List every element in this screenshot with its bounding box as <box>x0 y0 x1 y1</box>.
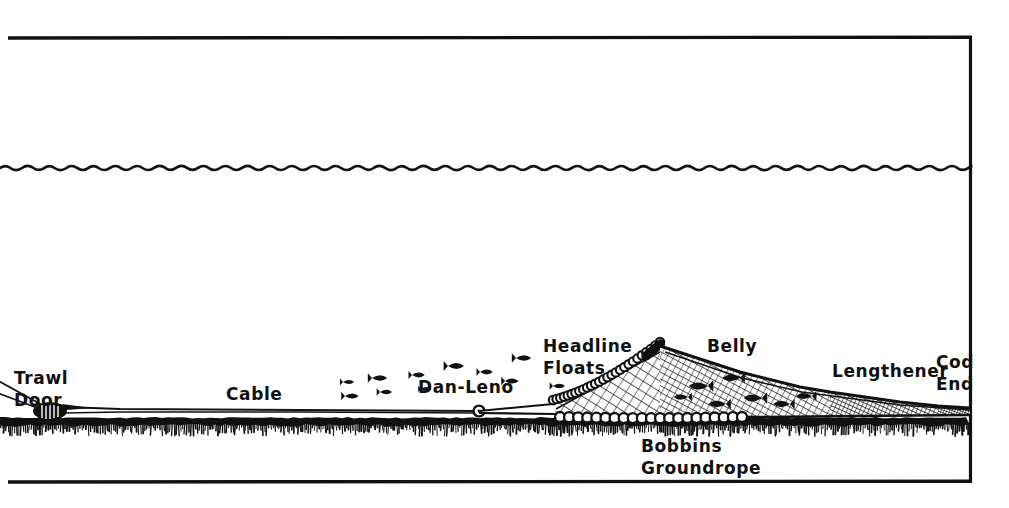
label-trawl-door-line-0: Trawl <box>14 368 68 388</box>
label-cod-end-line-0: Cod <box>936 352 974 372</box>
fish-icon <box>340 378 354 385</box>
groundrope-group <box>555 412 760 423</box>
bottom-border-rule <box>8 481 972 482</box>
label-dan-leno-line-0: Dan-Leno <box>418 377 514 397</box>
label-belly-line-0: Belly <box>707 336 757 356</box>
fish-icon <box>550 382 565 390</box>
label-bobbins-groundrope-line-1: Groundrope <box>641 458 761 478</box>
seabed-group <box>0 417 970 436</box>
bobbin <box>737 412 747 422</box>
label-belly: Belly <box>707 336 757 356</box>
label-cable: Cable <box>226 384 282 404</box>
bobbin-chain <box>555 412 747 423</box>
trawl-diagram-page: TrawlDoorCableDan-LenoHeadlineFloatsBell… <box>0 0 1009 508</box>
label-dan-leno: Dan-Leno <box>418 377 514 397</box>
trawl-diagram-canvas: TrawlDoorCableDan-LenoHeadlineFloatsBell… <box>0 0 1009 508</box>
sea-surface-wavy-line <box>0 166 971 170</box>
fish-icon <box>377 388 392 396</box>
top-border-rule <box>8 37 972 38</box>
otter-trawl-door <box>33 402 478 420</box>
label-lengthener-line-0: Lengthener <box>832 361 948 381</box>
label-bobbins-groundrope-line-0: Bobbins <box>641 436 722 456</box>
fish-icon <box>368 373 387 383</box>
sea-surface-group <box>0 166 971 170</box>
label-trawl-door: TrawlDoor <box>14 368 68 410</box>
label-bobbins-groundrope: BobbinsGroundrope <box>641 436 761 478</box>
label-cod-end-line-1: End <box>936 374 974 394</box>
label-headline-floats-line-0: Headline <box>543 336 633 356</box>
fish-icon <box>341 392 358 401</box>
label-lengthener: Lengthener <box>832 361 948 381</box>
door-bridle-lower-line <box>64 412 478 413</box>
fish-icon <box>444 361 464 371</box>
fish-icon <box>476 368 492 376</box>
fish-icon <box>512 353 531 363</box>
label-trawl-door-line-1: Door <box>14 390 62 410</box>
door-bridle-line <box>64 407 478 411</box>
label-headline-floats-line-1: Floats <box>543 358 605 378</box>
label-cable-line-0: Cable <box>226 384 282 404</box>
